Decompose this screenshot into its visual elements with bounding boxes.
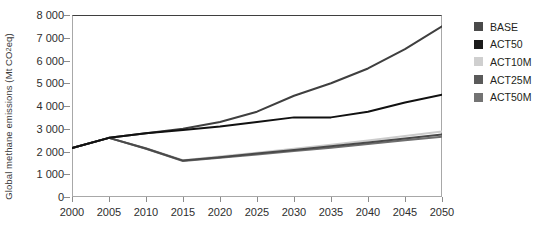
x-axis-tick-label: 2050: [412, 205, 472, 219]
x-axis-tick-marks: [72, 197, 442, 203]
y-axis-tick-label: 2 000: [16, 146, 64, 158]
legend-swatch-icon: [474, 57, 483, 66]
legend-item-base[interactable]: BASE: [474, 18, 552, 36]
legend-swatch-icon: [474, 40, 483, 49]
y-axis-title: Global methane emissions (Mt CO2 eq): [0, 0, 16, 233]
x-axis-tick-mark: [109, 197, 110, 202]
y-axis-tick-mark: [64, 83, 70, 84]
y-axis-tick-mark: [64, 152, 70, 153]
y-axis-title-suffix: eq): [3, 33, 14, 47]
y-axis-tick-label: 6 000: [16, 55, 64, 67]
plot-lines: [72, 15, 442, 197]
x-axis-tick-mark: [183, 197, 184, 202]
y-axis-title-subscript: 2: [4, 47, 13, 51]
x-axis-tick-mark: [331, 197, 332, 202]
y-axis-tick-mark: [64, 38, 70, 39]
x-axis-tick-mark: [368, 197, 369, 202]
legend-label: ACT10M: [490, 56, 531, 68]
y-axis-tick-label: 1 000: [16, 168, 64, 180]
y-axis-tick-label: 3 000: [16, 123, 64, 135]
y-axis-title-prefix: Global methane emissions (Mt CO: [3, 51, 14, 199]
x-axis-tick-mark: [294, 197, 295, 202]
y-axis-tick-mark: [64, 106, 70, 107]
y-axis-tick-mark: [64, 61, 70, 62]
y-axis-tick-mark: [64, 15, 70, 16]
legend-item-act25m[interactable]: ACT25M: [474, 71, 552, 89]
y-axis-tick-label: 8 000: [16, 9, 64, 21]
x-axis-tick-mark: [405, 197, 406, 202]
y-axis-tick-mark: [64, 197, 70, 198]
y-axis-tick-label: 7 000: [16, 32, 64, 44]
legend-label: BASE: [490, 21, 518, 33]
y-axis-tick-mark: [64, 129, 70, 130]
x-axis-tick-mark: [257, 197, 258, 202]
x-axis-tick-mark: [146, 197, 147, 202]
x-axis-tick-mark: [72, 197, 73, 202]
y-axis-tick-label: 0: [16, 191, 64, 203]
chart-legend: BASEACT50ACT10MACT25MACT50M: [474, 18, 552, 106]
x-axis-tick-mark: [220, 197, 221, 202]
legend-label: ACT50: [490, 38, 523, 50]
legend-item-act50m[interactable]: ACT50M: [474, 88, 552, 106]
y-axis-tick-mark: [64, 174, 70, 175]
legend-item-act10m[interactable]: ACT10M: [474, 53, 552, 71]
legend-swatch-icon: [474, 22, 483, 31]
legend-swatch-icon: [474, 75, 483, 84]
chart-figure: Global methane emissions (Mt CO2 eq) 8 0…: [0, 0, 552, 233]
x-axis-tick-mark: [442, 197, 443, 202]
legend-label: ACT50M: [490, 91, 531, 103]
legend-swatch-icon: [474, 93, 483, 102]
legend-label: ACT25M: [490, 74, 531, 86]
x-axis-tick-labels: 2000200520102015202020252030203520402045…: [42, 205, 472, 223]
y-axis-tick-label: 5 000: [16, 77, 64, 89]
y-axis-tick-labels: 8 0007 0006 0005 0004 0003 0002 0001 000…: [16, 9, 64, 203]
y-axis-tick-label: 4 000: [16, 100, 64, 112]
legend-item-act50[interactable]: ACT50: [474, 36, 552, 54]
series-line-base: [72, 26, 442, 148]
